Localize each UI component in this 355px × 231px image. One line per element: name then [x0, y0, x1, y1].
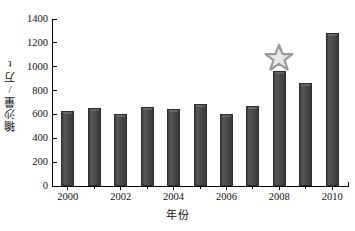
y-tick-label-1400: 1400: [0, 14, 48, 25]
y-tick-label-0: 0: [0, 181, 48, 192]
bar-2008: [273, 71, 286, 186]
y-tick-label-200: 200: [0, 157, 48, 168]
bar-2004: [167, 109, 180, 186]
bar-2003: [141, 107, 154, 186]
x-tick-minor-2001: [94, 186, 95, 189]
x-tick-minor-2009: [305, 186, 306, 189]
x-tick-2010: [332, 186, 333, 190]
x-axis-right-cap: [348, 182, 349, 187]
bar-2009: [299, 83, 312, 186]
y-tick-label-400: 400: [0, 133, 48, 144]
y-tick-label-1200: 1200: [0, 38, 48, 49]
bar-2007: [246, 106, 259, 186]
x-tick-label-2002: 2002: [110, 192, 131, 203]
x-tick-2002: [120, 186, 121, 190]
x-tick-label-2004: 2004: [163, 192, 184, 203]
bar-2000: [61, 111, 74, 186]
plot-area: [52, 19, 348, 186]
bar-2010: [326, 33, 339, 186]
x-tick-2008: [279, 186, 280, 190]
x-tick-minor-2007: [252, 186, 253, 189]
chart-figure: 0200400600800100012001400 20002002200420…: [0, 0, 355, 231]
y-axis-title: 输沙量/万t: [2, 58, 16, 132]
x-tick-label-2000: 2000: [57, 192, 78, 203]
x-tick-minor-2003: [147, 186, 148, 189]
y-tick-0: [52, 186, 57, 187]
x-tick-2006: [226, 186, 227, 190]
x-tick-label-2010: 2010: [322, 192, 343, 203]
star-icon: [264, 43, 294, 72]
x-tick-label-2008: 2008: [269, 192, 290, 203]
bar-2002: [114, 114, 127, 186]
bar-2005: [194, 104, 207, 186]
x-tick-minor-2005: [200, 186, 201, 189]
bar-2006: [220, 114, 233, 186]
bar-2001: [88, 108, 101, 186]
x-tick-2004: [173, 186, 174, 190]
x-tick-2000: [67, 186, 68, 190]
x-tick-label-2006: 2006: [216, 192, 237, 203]
x-axis-title: 年份: [0, 206, 355, 222]
